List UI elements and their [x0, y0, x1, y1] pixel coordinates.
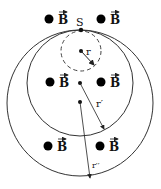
field-marker: B	[97, 12, 121, 27]
field-marker: B	[97, 75, 121, 90]
radius-r-label: r	[86, 46, 91, 57]
field-marker: B	[45, 12, 69, 27]
radius-r-double-prime-arrow	[80, 102, 90, 178]
radius-r-prime-label: r′	[96, 98, 104, 109]
magnetic-field-orbit-diagram: S r r′ r′′ B B B B B B	[0, 0, 161, 189]
field-label: B	[59, 76, 69, 90]
field-dot-icon	[45, 15, 54, 24]
field-marker: B	[46, 75, 70, 90]
field-label: B	[109, 140, 119, 154]
field-dot-icon	[97, 15, 106, 24]
point-s-label: S	[76, 16, 84, 29]
field-dot-icon	[46, 78, 55, 87]
field-marker: B	[96, 139, 120, 154]
field-marker: B	[44, 139, 68, 154]
radius-r-double-prime-label: r′′	[92, 161, 100, 170]
field-dot-icon	[44, 142, 53, 151]
field-label: B	[58, 13, 68, 27]
field-label: B	[110, 13, 120, 27]
field-label: B	[110, 76, 120, 90]
field-dot-icon	[96, 142, 105, 151]
field-label: B	[57, 140, 67, 154]
field-dot-icon	[97, 78, 106, 87]
